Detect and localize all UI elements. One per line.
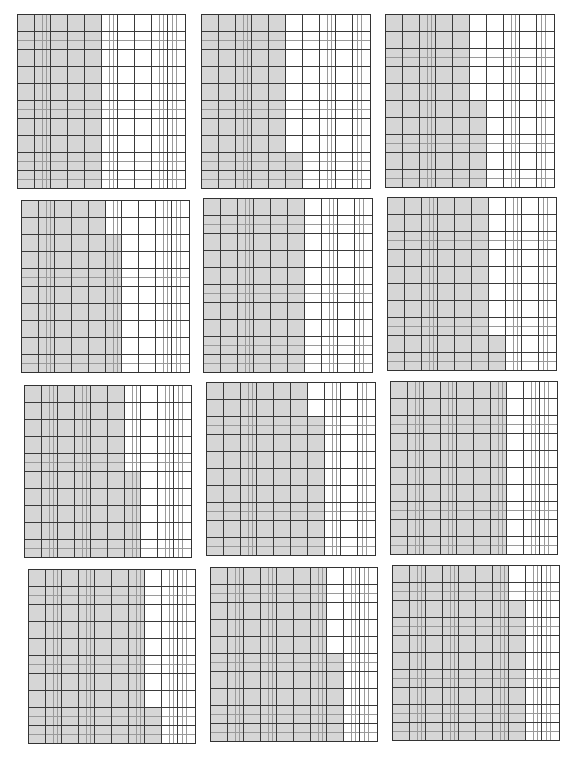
grid-cell <box>506 336 523 353</box>
grid-cell-shaded <box>238 303 255 320</box>
grid-cell <box>139 252 156 269</box>
grid-cell <box>540 502 557 519</box>
grid-cell <box>470 49 487 66</box>
grid-cell-shaded <box>89 321 106 338</box>
grid-cell-shaded <box>422 301 439 318</box>
grid-cell-shaded <box>95 587 112 604</box>
grid-cell-shaded <box>207 383 224 400</box>
grid-cell <box>122 252 139 269</box>
grid-cell-shaded <box>221 355 238 372</box>
grid-cell-shaded <box>221 251 238 268</box>
grid-cell-shaded <box>459 583 476 600</box>
grid-cell <box>526 566 543 583</box>
grid-cell <box>135 136 152 153</box>
grid-cell-shaded <box>129 726 146 743</box>
grid-cell <box>168 153 185 170</box>
grid-cell <box>353 101 370 118</box>
grid-cell-shaded <box>207 452 224 469</box>
grid-cell <box>338 199 355 216</box>
grid-cell <box>145 605 162 622</box>
grid-cell <box>145 570 162 587</box>
grid-cell-shaded <box>252 32 269 49</box>
grid-cell-shaded <box>311 568 328 585</box>
grid-cell-shaded <box>58 506 75 523</box>
grid-cell-shaded <box>25 506 42 523</box>
grid-cell <box>139 304 156 321</box>
grid-cell-shaded <box>457 485 474 502</box>
grid-cell <box>135 171 152 188</box>
grid-cell <box>125 403 142 420</box>
grid-cell-shaded <box>35 119 52 136</box>
grid-cell-shaded <box>491 451 508 468</box>
grid-cell-shaded <box>257 383 274 400</box>
grid-cell-shaded <box>426 618 443 635</box>
grid-cell-shaded <box>403 32 420 49</box>
grid-cell <box>539 284 556 301</box>
grid-cell <box>156 287 173 304</box>
grid-cell <box>542 653 559 670</box>
grid-cell-shaded <box>509 688 526 705</box>
grid-cell-shaded <box>308 486 325 503</box>
grid-cell-shaded <box>129 708 146 725</box>
grid-cell-shaded <box>18 84 35 101</box>
grid-cell-shaded <box>286 171 303 188</box>
grid-cell <box>487 15 504 32</box>
grid-cell <box>118 84 135 101</box>
grid-cell <box>341 435 358 452</box>
grid-cell <box>524 537 541 554</box>
worksheet <box>0 0 572 762</box>
grid-cell <box>152 84 169 101</box>
grid-cell <box>338 303 355 320</box>
grid-cell-shaded <box>438 232 455 249</box>
grid-cell-shaded <box>91 420 108 437</box>
grid-cell-shaded <box>474 451 491 468</box>
grid-cell <box>118 153 135 170</box>
grid-cell <box>118 67 135 84</box>
grid-cell <box>358 452 375 469</box>
grid-cell-shaded <box>95 622 112 639</box>
grid-cell-shaded <box>224 383 241 400</box>
grid-cell <box>141 386 158 403</box>
grid-cell-shaded <box>55 287 72 304</box>
grid-cell-shaded <box>403 101 420 118</box>
grid-cell-shaded <box>224 521 241 538</box>
grid-cell-shaded <box>39 355 56 372</box>
grid-cell <box>540 520 557 537</box>
grid-cell <box>125 437 142 454</box>
grid-cell <box>102 15 119 32</box>
grid-cell-shaded <box>219 84 236 101</box>
grid-cell-shaded <box>221 234 238 251</box>
grid-cell-shaded <box>457 468 474 485</box>
grid-cell-shaded <box>145 726 162 743</box>
grid-cell-shaded <box>474 502 491 519</box>
grid-cell <box>336 67 353 84</box>
grid-cell-shaded <box>453 32 470 49</box>
grid-cell <box>537 49 554 66</box>
grid-cell-shaded <box>453 135 470 152</box>
grid-cell <box>344 568 361 585</box>
grid-cell-shaded <box>388 198 405 215</box>
grid-cell <box>353 84 370 101</box>
grid-cell <box>542 636 559 653</box>
grid-cell-shaded <box>241 503 258 520</box>
grid-cell-shaded <box>68 32 85 49</box>
grid-cell-shaded <box>42 472 59 489</box>
grid-cell-shaded <box>202 84 219 101</box>
grid-cell-shaded <box>436 101 453 118</box>
grid-cell-shaded <box>29 674 46 691</box>
grid-cell-shaded <box>39 287 56 304</box>
grid-cell <box>322 355 339 372</box>
grid-cell-shaded <box>29 570 46 587</box>
grid-cell-shaded <box>68 136 85 153</box>
grid-cell-shaded <box>108 454 125 471</box>
grid-cell-shaded <box>424 468 441 485</box>
grid-cell-shaded <box>62 674 79 691</box>
grid-cell-shaded <box>51 32 68 49</box>
grid-cell-shaded <box>46 605 63 622</box>
grid-cell <box>360 672 377 689</box>
grid-cell-shaded <box>75 506 92 523</box>
grid-cell-shaded <box>108 403 125 420</box>
grid-cell-shaded <box>85 136 102 153</box>
grid-cell-shaded <box>42 489 59 506</box>
grid-cell <box>520 101 537 118</box>
